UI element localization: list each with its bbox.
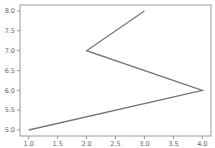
y-tick-label: 6.0 — [5, 87, 15, 95]
plot-frame — [20, 5, 211, 136]
series-line — [29, 11, 203, 130]
y-tick-label: 5.5 — [5, 106, 15, 114]
y-tick-label: 6.5 — [5, 67, 15, 75]
y-tick-label: 7.0 — [5, 47, 15, 55]
x-axis-ticks: 1.01.52.02.53.03.54.0 — [24, 136, 208, 148]
y-tick-label: 5.0 — [5, 126, 15, 134]
x-tick-label: 2.5 — [110, 140, 120, 148]
axes-border — [20, 5, 211, 136]
data-series — [29, 11, 203, 130]
y-tick-label: 8.0 — [5, 7, 15, 15]
x-tick-label: 4.0 — [197, 140, 207, 148]
line-chart: 1.01.52.02.53.03.54.0 5.05.56.06.57.07.5… — [0, 0, 215, 148]
x-tick-label: 1.0 — [24, 140, 34, 148]
x-tick-label: 1.5 — [52, 140, 62, 148]
x-tick-label: 3.0 — [139, 140, 149, 148]
x-tick-label: 3.5 — [168, 140, 178, 148]
y-axis-ticks: 5.05.56.06.57.07.58.0 — [5, 7, 20, 134]
y-tick-label: 7.5 — [5, 27, 15, 35]
x-tick-label: 2.0 — [81, 140, 91, 148]
